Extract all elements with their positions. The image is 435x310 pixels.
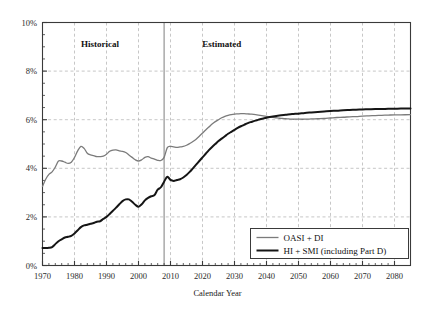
x-tick-label: 1980 — [66, 271, 83, 281]
legend-label-1: HI + SMI (including Part D) — [284, 246, 387, 256]
x-tick-label: 2020 — [194, 271, 211, 281]
chart-container: 1970198019902000201020202030204020502060… — [0, 0, 435, 310]
phase-label: Historical — [81, 39, 119, 49]
x-tick-label: 1970 — [34, 271, 51, 281]
x-axis-title: Calendar Year — [193, 288, 241, 298]
x-tick-label: 1990 — [98, 271, 115, 281]
x-tick-label: 2040 — [258, 271, 275, 281]
x-tick-label: 2000 — [130, 271, 147, 281]
x-tick-label: 2050 — [290, 271, 307, 281]
y-tick-label: 4% — [26, 163, 37, 173]
phase-label: Estimated — [202, 39, 241, 49]
legend-label-0: OASI + DI — [284, 233, 324, 243]
y-tick-label: 0% — [26, 261, 37, 271]
x-tick-label: 2030 — [226, 271, 243, 281]
y-tick-label: 8% — [26, 66, 37, 76]
chart-legend[interactable]: OASI + DIHI + SMI (including Part D) — [251, 229, 409, 259]
y-tick-label: 6% — [26, 115, 37, 125]
cost-rate-line-chart: 1970198019902000201020202030204020502060… — [0, 0, 435, 310]
x-tick-label: 2070 — [354, 271, 371, 281]
y-tick-label: 2% — [26, 212, 37, 222]
x-tick-label: 2010 — [162, 271, 179, 281]
x-tick-label: 2060 — [322, 271, 339, 281]
y-tick-label: 10% — [21, 18, 37, 28]
x-tick-label: 2080 — [386, 271, 403, 281]
